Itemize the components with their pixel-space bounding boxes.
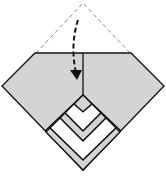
diagram-svg <box>0 0 166 179</box>
origami-diagram <box>0 0 166 179</box>
dashed-flap <box>36 3 130 53</box>
fold-arrow-icon <box>70 20 82 80</box>
